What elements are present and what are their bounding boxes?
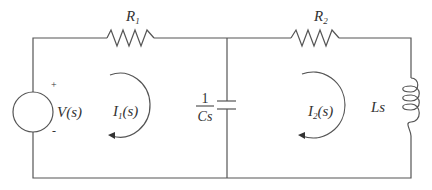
plus-sign: +: [51, 79, 57, 90]
voltage-source: + - V(s): [13, 79, 82, 138]
resistor-r2-label: R2: [313, 8, 328, 26]
arrowhead-icon: [108, 132, 115, 139]
minus-sign: -: [52, 124, 56, 138]
mesh-current-1-label: I1(s): [112, 103, 138, 121]
inductor: Ls: [370, 78, 419, 136]
resistor-r1-label: R1: [125, 8, 140, 26]
inductor-label: Ls: [370, 99, 385, 115]
arrowhead-icon: [298, 132, 305, 139]
resistor-r1: R1: [107, 8, 154, 46]
wires: [33, 38, 411, 178]
capacitor-denominator: Cs: [198, 109, 213, 124]
capacitor: 1 Cs: [196, 91, 236, 124]
capacitor-numerator: 1: [202, 91, 209, 106]
mesh-current-1: I1(s): [108, 73, 150, 139]
circuit-diagram: R1 R2 + - V(s) 1 Cs Ls I1(s) I2(s): [0, 0, 432, 190]
mesh-current-2-label: I2(s): [307, 103, 333, 121]
mesh-current-2: I2(s): [298, 72, 345, 139]
resistor-r2: R2: [291, 8, 339, 46]
voltage-source-label: V(s): [57, 104, 82, 121]
